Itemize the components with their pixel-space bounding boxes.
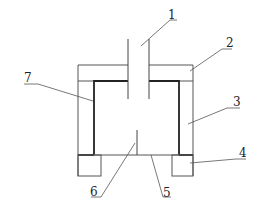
label-6: 6 — [90, 185, 98, 199]
label-1: 1 — [168, 8, 176, 22]
inner-lining — [78, 81, 193, 155]
left-foot — [78, 155, 101, 176]
top-cover — [78, 65, 193, 81]
inlet-tube — [128, 39, 149, 99]
label-4: 4 — [239, 146, 247, 160]
label-3: 3 — [233, 95, 241, 109]
leader-lines — [24, 20, 246, 197]
label-2: 2 — [226, 36, 234, 50]
right-foot — [172, 155, 193, 176]
schematic-diagram: 1 2 3 4 5 6 7 — [0, 0, 253, 211]
label-5: 5 — [163, 186, 171, 200]
label-7: 7 — [24, 71, 32, 85]
